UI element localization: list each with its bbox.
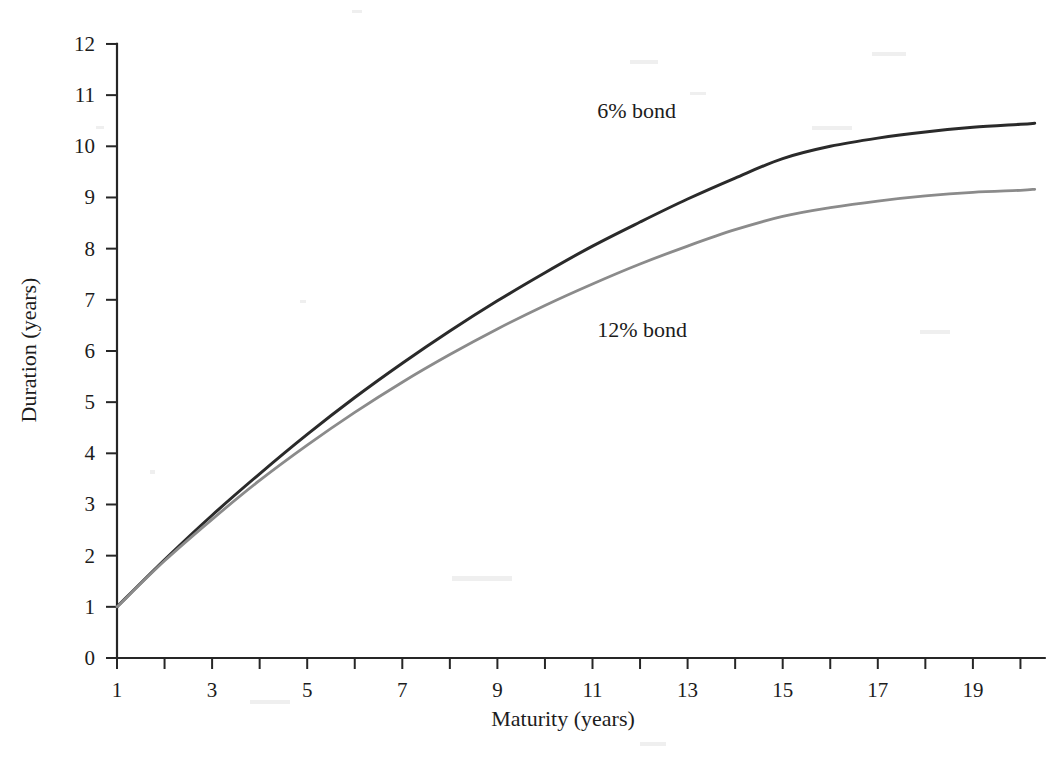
scan-speck: [96, 126, 104, 129]
y-axis-title: Duration (years): [16, 278, 41, 423]
y-tick-label-10: 10: [74, 134, 95, 158]
chart-canvas: 0123456789101112 135791113151719 6% bond…: [0, 0, 1046, 771]
scan-speck: [452, 576, 512, 581]
scan-speck: [640, 742, 666, 746]
scan-speck: [352, 10, 362, 13]
x-tick-label-11: 11: [582, 678, 602, 702]
y-tick-label-2: 2: [85, 544, 96, 568]
y-tick-label-12: 12: [74, 32, 95, 56]
y-tick-label-4: 4: [85, 441, 96, 465]
x-tick-label-9: 9: [492, 678, 503, 702]
x-tick-label-17: 17: [867, 678, 888, 702]
x-tick-label-13: 13: [677, 678, 698, 702]
scan-speck: [250, 700, 290, 704]
scan-speck: [300, 300, 306, 303]
x-tick-label-1: 1: [112, 678, 123, 702]
x-tick-label-5: 5: [302, 678, 313, 702]
y-tick-label-5: 5: [85, 390, 96, 414]
y-tick-label-8: 8: [85, 237, 96, 261]
x-tick-label-7: 7: [397, 678, 408, 702]
plot-background: [0, 0, 1046, 771]
y-tick-label-6: 6: [85, 339, 96, 363]
scan-speck: [812, 126, 852, 130]
scan-speck: [150, 470, 155, 474]
y-tick-label-1: 1: [85, 595, 96, 619]
x-axis-title: Maturity (years): [491, 706, 635, 731]
x-tick-label-15: 15: [772, 678, 793, 702]
duration-vs-maturity-chart: 0123456789101112 135791113151719 6% bond…: [0, 0, 1046, 771]
y-tick-label-0: 0: [85, 646, 96, 670]
y-tick-label-3: 3: [85, 492, 96, 516]
y-tick-label-11: 11: [75, 83, 95, 107]
y-tick-label-9: 9: [85, 185, 96, 209]
annotation-6-bond: 6% bond: [597, 98, 676, 123]
y-tick-label-7: 7: [85, 288, 96, 312]
scan-speck: [690, 92, 706, 95]
scan-speck: [920, 330, 950, 334]
annotation-12-bond: 12% bond: [597, 317, 687, 342]
scan-speck: [630, 60, 658, 64]
x-tick-label-19: 19: [962, 678, 983, 702]
scan-speck: [872, 52, 906, 56]
x-tick-label-3: 3: [207, 678, 218, 702]
